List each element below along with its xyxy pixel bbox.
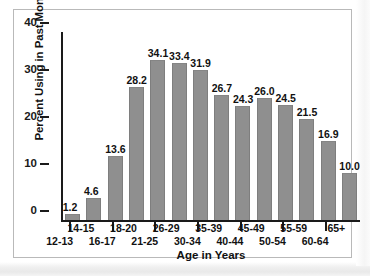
bar [257,98,272,220]
bar-value-label: 4.6 [84,186,99,197]
x-axis-title: Age in Years [62,249,360,261]
x-axis-category-label: 16-17 [84,236,120,247]
figure-frame: Percent Using in Past Month 010203040 1.… [13,9,352,258]
y-axis-tick-label-text: 0 [11,205,37,217]
page-bottom-shadow [0,262,370,276]
bar-value-label: 28.2 [127,75,147,86]
bar [65,214,80,220]
plot-area: 1.24.613.628.234.133.431.926.724.326.024… [62,32,360,220]
y-axis-tick-label: 40 [7,17,37,29]
x-axis-category-label: 45-49 [233,223,269,234]
y-axis-tick-label-text: 40 [11,17,37,29]
bar [172,63,187,220]
bar-value-label: 26.7 [212,83,232,94]
bar [278,105,293,220]
bar-value-label: 10.0 [339,161,359,172]
bar-value-label: 26.0 [254,86,274,97]
bar-value-label: 33.4 [169,51,189,62]
bar-value-label: 1.2 [63,202,78,213]
bar-value-label: 16.9 [318,129,338,140]
y-axis-tick [40,22,49,24]
x-axis-category-label: 35-39 [191,223,227,234]
y-axis-tick [40,210,49,212]
bar-value-label: 13.6 [105,144,125,155]
x-axis-category-label: 30-34 [169,236,205,247]
bar [235,106,250,220]
bar [342,173,357,220]
x-axis-category-label: 21-25 [127,236,163,247]
x-axis-category-label: 12-13 [42,236,78,247]
x-axis-tick [325,222,327,231]
bar [129,87,144,220]
bar [299,119,314,220]
bar-value-label: 24.3 [233,94,253,105]
x-axis-category-label: 55-59 [276,223,312,234]
bar [86,198,101,220]
bar-value-label: 24.5 [276,93,296,104]
x-axis-category-label: 60-64 [297,236,333,247]
chart-page: Percent Using in Past Month 010203040 1.… [0,0,370,276]
x-axis-category-label: 18-20 [106,223,142,234]
bar [214,95,229,220]
y-axis-tick-label: 0 [7,205,37,217]
y-axis-tick-label: 10 [7,158,37,170]
y-axis-tick [40,116,49,118]
y-axis-tick-label-text: 30 [11,64,37,76]
x-axis-category-label: 14-15 [63,223,99,234]
y-axis-tick-label: 30 [7,64,37,76]
y-axis-tick-label: 20 [7,111,37,123]
bar [108,156,123,220]
y-axis-tick [40,69,49,71]
x-axis-category-label: 26-29 [148,223,184,234]
bar-value-label: 31.9 [190,58,210,69]
bar [150,60,165,220]
x-axis-category-label: 50-54 [255,236,291,247]
bar [193,70,208,220]
x-axis-category-label: 40-44 [212,236,248,247]
bar-value-label: 34.1 [148,48,168,59]
bar [321,141,336,220]
bar-value-label: 21.5 [297,107,317,118]
y-axis-tick-label-text: 10 [11,158,37,170]
y-axis-tick-label-text: 20 [11,111,37,123]
y-axis-tick [40,163,49,165]
